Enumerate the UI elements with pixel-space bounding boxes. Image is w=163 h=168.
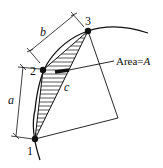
point-1-marker [32,136,38,142]
point-1-label: 1 [27,144,33,158]
point-3-marker [85,28,91,34]
dimension-b [27,12,84,63]
dimension-b-label: b [40,25,46,39]
curve-triangle-diagram: 1 2 3 a b c Area=A [0,0,163,168]
area-label-prefix: Area= [116,55,144,67]
area-leader-line [69,61,114,70]
dimension-c-label: c [64,80,70,94]
construction-lines [35,31,118,139]
area-label: Area=A [116,55,151,67]
dimension-a-label: a [8,93,14,107]
centroid-bar [55,70,69,72]
point-3-label: 3 [85,14,91,28]
area-label-symbol: A [143,55,151,67]
point-2-marker [40,67,46,73]
point-2-label: 2 [30,64,36,78]
curve-arc [33,27,148,160]
